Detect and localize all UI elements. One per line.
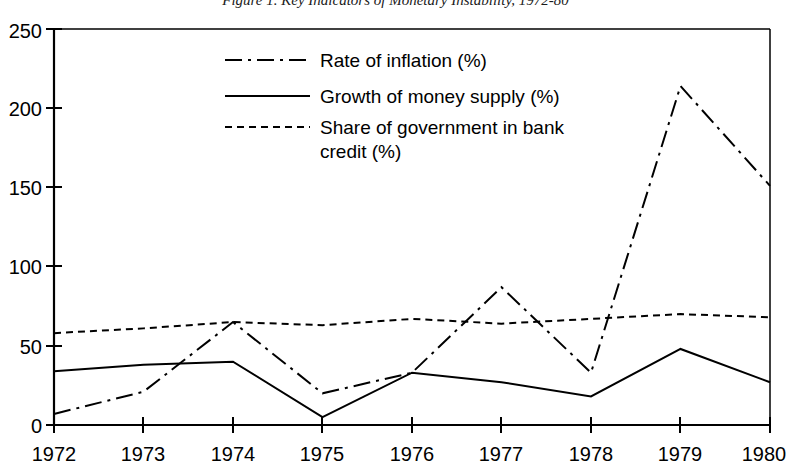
legend-label-share-of-government-line1: Share of government in bank [320,117,564,138]
y-tick-label: 150 [9,177,42,199]
line-chart-plot: 0 50 100 150 200 250 1972 1973 1974 1975… [0,0,791,469]
y-axis-tick-labels: 0 50 100 150 200 250 [9,20,42,437]
x-tick-label: 1978 [569,443,614,465]
x-tick-label: 1973 [121,443,166,465]
series-line-share-of-government-in-bank-credit [54,314,770,333]
legend-label-growth-of-money-supply: Growth of money supply (%) [320,86,560,107]
x-tick-label: 1974 [211,443,256,465]
chart-figure: Figure 1. Key Indicators of Monetary Ins… [0,0,791,469]
x-tick-label: 1972 [32,443,77,465]
x-tick-label: 1976 [390,443,435,465]
y-tick-label: 50 [20,336,42,358]
y-tick-label: 100 [9,256,42,278]
legend-label-share-of-government-line2: credit (%) [320,141,401,162]
x-tick-label: 1980 [742,443,787,465]
y-tick-label: 200 [9,98,42,120]
legend-label-rate-of-inflation: Rate of inflation (%) [320,50,487,71]
x-tick-label: 1977 [479,443,524,465]
x-tick-label: 1979 [658,443,703,465]
x-axis-tick-labels: 1972 1973 1974 1975 1976 1977 1978 1979 … [32,443,787,465]
chart-legend: Rate of inflation (%) Growth of money su… [225,50,564,162]
y-tick-label: 0 [31,415,42,437]
series-line-growth-of-money-supply [54,349,770,417]
x-tick-label: 1975 [300,443,345,465]
y-tick-label: 250 [9,20,42,42]
